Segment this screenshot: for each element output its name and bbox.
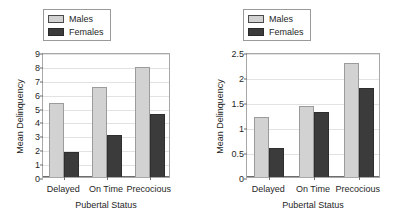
legend-left: Males Females bbox=[43, 9, 111, 41]
y-tick-mark bbox=[244, 154, 247, 155]
y-tick-mark bbox=[40, 151, 43, 152]
bar-females-on-time bbox=[107, 135, 122, 177]
x-tick-label-precocious: Precocious bbox=[335, 184, 380, 194]
x-tick-mark bbox=[64, 177, 65, 180]
x-tick-mark bbox=[107, 177, 108, 180]
x-axis-title-right: Pubertal Status bbox=[282, 200, 344, 210]
bar-males-precocious bbox=[135, 67, 150, 177]
y-tick-label: 6 bbox=[35, 91, 40, 100]
y-tick-mark bbox=[40, 179, 43, 180]
y-tick-label: 0 bbox=[239, 175, 244, 184]
y-tick-label: 0 bbox=[35, 175, 40, 184]
gridline bbox=[43, 54, 169, 55]
y-tick-label: 2.5 bbox=[231, 50, 244, 59]
bar-females-delayed bbox=[269, 148, 284, 177]
x-axis-title-left: Pubertal Status bbox=[75, 200, 137, 210]
y-tick-mark bbox=[40, 137, 43, 138]
legend-swatch-males-icon bbox=[248, 15, 264, 23]
y-tick-mark bbox=[244, 179, 247, 180]
bar-males-delayed bbox=[49, 103, 64, 177]
plot-area-left: 0123456789 bbox=[42, 53, 170, 178]
y-tick-mark bbox=[40, 81, 43, 82]
legend-swatch-females-icon bbox=[48, 28, 64, 36]
y-tick-label: 1 bbox=[239, 125, 244, 134]
gridline bbox=[43, 68, 169, 69]
y-tick-mark bbox=[40, 109, 43, 110]
bar-females-delayed bbox=[64, 152, 79, 177]
legend-right: Males Females bbox=[243, 9, 311, 41]
y-axis-title-left: Mean Delinquency bbox=[16, 77, 25, 157]
y-tick-mark bbox=[40, 54, 43, 55]
y-tick-label: 9 bbox=[35, 50, 40, 59]
x-tick-mark bbox=[150, 177, 151, 180]
bar-females-precocious bbox=[150, 114, 165, 177]
y-axis-title-right: Mean Delinquency bbox=[216, 77, 225, 157]
legend-swatch-males-icon bbox=[48, 15, 64, 23]
bar-males-on-time bbox=[92, 87, 107, 177]
y-tick-label: 1 bbox=[35, 161, 40, 170]
x-tick-label-delayed: Delayed bbox=[252, 184, 285, 194]
legend-entry-females: Females bbox=[48, 26, 104, 37]
y-tick-mark bbox=[40, 123, 43, 124]
bar-males-delayed bbox=[254, 117, 269, 177]
bar-males-precocious bbox=[344, 63, 359, 177]
y-tick-label: 7 bbox=[35, 77, 40, 86]
legend-entry-males: Males bbox=[248, 13, 304, 24]
legend-swatch-females-icon bbox=[248, 28, 264, 36]
y-tick-label: 5 bbox=[35, 105, 40, 114]
y-tick-label: 8 bbox=[35, 63, 40, 72]
x-tick-mark bbox=[269, 177, 270, 180]
legend-label-females: Females bbox=[69, 27, 104, 37]
dual-bar-chart-figure: Males Females Mean Delinquency 012345678… bbox=[0, 0, 405, 217]
x-tick-label-precocious: Precocious bbox=[126, 184, 171, 194]
y-tick-label: 0.5 bbox=[231, 150, 244, 159]
y-tick-mark bbox=[244, 129, 247, 130]
gridline bbox=[247, 79, 379, 80]
y-tick-label: 3 bbox=[35, 133, 40, 142]
gridline bbox=[247, 54, 379, 55]
bar-females-precocious bbox=[359, 88, 374, 177]
y-tick-label: 1.5 bbox=[231, 100, 244, 109]
y-tick-label: 2 bbox=[239, 75, 244, 84]
x-tick-label-on-time: On Time bbox=[296, 184, 330, 194]
x-tick-mark bbox=[359, 177, 360, 180]
bar-females-on-time bbox=[314, 112, 329, 178]
y-tick-mark bbox=[244, 104, 247, 105]
bar-males-on-time bbox=[299, 106, 314, 177]
y-tick-label: 4 bbox=[35, 119, 40, 128]
legend-entry-females: Females bbox=[248, 26, 304, 37]
legend-label-males: Males bbox=[69, 14, 93, 24]
chart-panel-right: Males Females Mean Delinquency 00.511.52… bbox=[202, 0, 405, 217]
x-tick-label-on-time: On Time bbox=[89, 184, 123, 194]
legend-label-females: Females bbox=[269, 27, 304, 37]
y-tick-mark bbox=[244, 54, 247, 55]
y-tick-label: 2 bbox=[35, 147, 40, 156]
x-tick-mark bbox=[314, 177, 315, 180]
y-tick-mark bbox=[40, 165, 43, 166]
gridline bbox=[43, 82, 169, 83]
plot-area-right: 00.511.522.5 bbox=[246, 53, 380, 178]
y-tick-mark bbox=[40, 95, 43, 96]
legend-entry-males: Males bbox=[48, 13, 104, 24]
y-tick-mark bbox=[244, 79, 247, 80]
chart-panel-left: Males Females Mean Delinquency 012345678… bbox=[0, 0, 202, 217]
y-tick-mark bbox=[40, 67, 43, 68]
legend-label-males: Males bbox=[269, 14, 293, 24]
x-tick-label-delayed: Delayed bbox=[47, 184, 80, 194]
